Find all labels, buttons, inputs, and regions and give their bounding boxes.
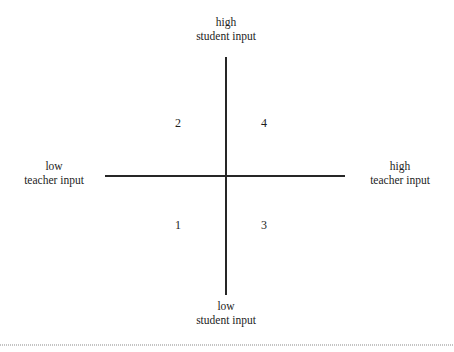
quadrant-label-upper-left: 2 (170, 116, 186, 130)
axis-label-left-line1: low (8, 160, 100, 174)
axis-label-top-line1: high (146, 16, 306, 30)
axis-label-top-high-student-input: high student input (146, 16, 306, 43)
quadrant-label-upper-right: 4 (256, 116, 272, 130)
axis-label-left-low-teacher-input: low teacher input (8, 160, 100, 187)
page-edge-scan-artifact (0, 344, 454, 346)
axis-label-left-line2: teacher input (8, 174, 100, 188)
axis-label-top-line2: student input (146, 30, 306, 44)
axis-label-bottom-line1: low (146, 300, 306, 314)
quadrant-label-lower-left: 1 (170, 218, 186, 232)
axis-label-bottom-low-student-input: low student input (146, 300, 306, 327)
horizontal-axis-line (105, 175, 345, 177)
quadrant-label-lower-right: 3 (256, 218, 272, 232)
axis-label-right-high-teacher-input: high teacher input (352, 160, 448, 187)
axis-label-right-line2: teacher input (352, 174, 448, 188)
quadrant-diagram: high student input low student input low… (0, 0, 454, 352)
axis-label-bottom-line2: student input (146, 314, 306, 328)
axis-label-right-line1: high (352, 160, 448, 174)
